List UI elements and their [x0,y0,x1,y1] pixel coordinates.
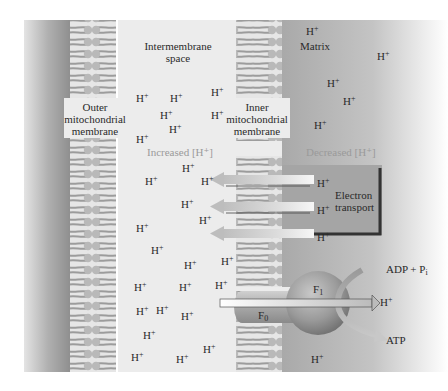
proton-ims: H+ [184,260,196,271]
outer-membrane-label: Outer mitochondrial membrane [62,101,128,137]
proton-ims: H+ [160,110,172,121]
proton-ims: H+ [143,330,155,341]
matrix-label: Matrix [300,40,330,52]
atp-label: ATP [386,334,406,346]
proton-et-1: H+ [317,178,329,189]
proton-ims: H+ [179,282,191,293]
intermembrane-space-label: Intermembrane space [132,40,224,64]
proton-ims: H+ [169,124,181,135]
proton-et-2: H+ [317,205,329,216]
proton-ims: H+ [211,110,223,121]
f1-label: F1 [313,283,323,299]
increased-band-gap [236,141,282,156]
proton-ims: H+ [203,344,215,355]
proton-ims: H+ [182,163,194,174]
proton-ims: H+ [221,256,233,267]
proton-matrix: H+ [311,354,323,365]
proton-ims: H+ [181,311,193,322]
proton-synthase-out: H+ [380,297,392,308]
proton-ims: H+ [170,93,182,104]
chemiosmosis-diagram: Intermembrane space Matrix Outer mitocho… [0,0,448,391]
proton-ims: H+ [181,199,193,210]
electron-transport-label: Electron transport [335,189,374,213]
proton-ims: H+ [134,282,146,293]
proton-ims: H+ [136,93,148,104]
proton-ims: H+ [136,223,148,234]
proton-ims: H+ [199,215,211,226]
proton-ims: H+ [151,245,163,256]
proton-ims: H+ [145,176,157,187]
f0-label: F0 [258,309,268,325]
outer-compartment-wall [24,20,72,372]
proton-matrix: H+ [327,78,339,89]
proton-et-3: H+ [317,232,329,243]
proton-ims: H+ [176,354,188,365]
proton-ims: H+ [201,176,213,187]
proton-matrix: H+ [314,120,326,131]
proton-ims: H+ [136,306,148,317]
proton-ims: H+ [215,280,227,291]
proton-matrix: H+ [343,96,355,107]
proton-ims: H+ [131,352,143,363]
proton-ims: H+ [211,87,223,98]
proton-ims: H+ [156,305,168,316]
intermembrane-space-region [118,20,236,372]
increased-h-label: Increased [H⁺] [147,146,213,158]
proton-matrix: H+ [377,51,389,62]
proton-ims: H+ [136,134,148,145]
proton-matrix: H+ [306,26,318,37]
inner-membrane-label: Inner mitochondrial membrane [224,101,290,137]
outer-membrane-bilayer [70,20,116,372]
adp-pi-label: ADP + Pi [386,263,428,279]
decreased-h-label: Decreased [H⁺] [306,146,376,158]
